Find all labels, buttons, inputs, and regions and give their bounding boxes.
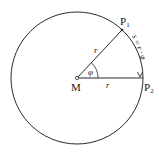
arc-formula: s = r · φ [130,33,148,61]
p1-point [121,29,124,32]
radius-to-p1 [77,30,122,78]
p2-label: P2 [144,81,154,95]
p1-label: P1 [120,15,130,29]
radius-label-upper: r [94,45,98,55]
radius-label-lower: r [106,80,110,90]
center-label: M [71,81,81,93]
arc-arrow-icon [138,72,143,77]
center-point [75,76,78,79]
angle-label: φ [88,67,93,77]
circle-diagram: M P1 P2 r r φ s = r · φ [0,0,159,153]
